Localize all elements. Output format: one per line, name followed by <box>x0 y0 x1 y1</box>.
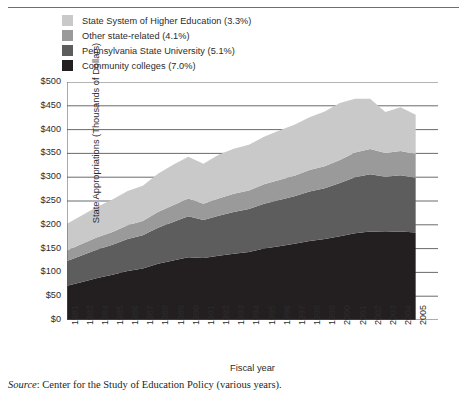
x-tick-2005: 2005 <box>419 305 428 325</box>
x-tick-2003: 2003 <box>389 305 398 325</box>
x-tick-1990: 1990 <box>192 305 201 325</box>
legend-swatch-community-colleges <box>62 60 73 71</box>
x-tick-2000: 2000 <box>343 305 352 325</box>
x-tick-2004: 2004 <box>404 305 413 325</box>
x-tick-1999: 1999 <box>328 305 337 325</box>
legend-label-pennsylvania-state-university: Pennsylvania State University (5.1%) <box>82 46 235 56</box>
y-tick-100: $100 <box>27 267 61 276</box>
x-tick-1989: 1989 <box>177 305 186 325</box>
x-axis-title: Fiscal year <box>67 363 438 373</box>
y-tick-0: $0 <box>27 315 61 324</box>
y-tick-200: $200 <box>27 220 61 229</box>
x-tick-1986: 1986 <box>131 305 140 325</box>
x-tick-1991: 1991 <box>207 305 216 325</box>
y-tick-350: $350 <box>27 148 61 157</box>
chart-plot-area <box>67 82 438 320</box>
x-tick-1985: 1985 <box>116 305 125 325</box>
y-axis-title: State Appropriations (Thousands of Dolla… <box>91 28 101 238</box>
x-tick-2001: 2001 <box>359 305 368 325</box>
y-tick-250: $250 <box>27 196 61 205</box>
x-axis-tick-labels: 1981198219841985198619871988198919901991… <box>67 325 438 365</box>
x-tick-1996: 1996 <box>283 305 292 325</box>
x-tick-1984: 1984 <box>101 305 110 325</box>
legend-item-state-system-higher-education: State System of Higher Education (3.3%) <box>62 13 382 28</box>
x-tick-1993: 1993 <box>237 305 246 325</box>
y-tick-400: $400 <box>27 125 61 134</box>
y-tick-50: $50 <box>27 291 61 300</box>
source-text: : Center for the Study of Education Poli… <box>37 379 282 390</box>
legend-item-pennsylvania-state-university: Pennsylvania State University (5.1%) <box>62 43 382 58</box>
x-tick-1997: 1997 <box>298 305 307 325</box>
x-tick-1981: 1981 <box>71 305 80 325</box>
y-tick-500: $500 <box>27 77 61 86</box>
top-divider-rule <box>8 7 459 8</box>
x-tick-1994: 1994 <box>252 305 261 325</box>
legend-item-other-state-related: Other state-related (4.1%) <box>62 28 382 43</box>
x-tick-1998: 1998 <box>313 305 322 325</box>
y-tick-300: $300 <box>27 172 61 181</box>
source-label: Source <box>8 379 37 390</box>
legend-swatch-pennsylvania-state-university <box>62 45 73 56</box>
legend-swatch-other-state-related <box>62 30 73 41</box>
chart-legend: State System of Higher Education (3.3%)O… <box>62 13 382 73</box>
x-tick-1982: 1982 <box>86 305 95 325</box>
x-tick-1995: 1995 <box>268 305 277 325</box>
x-tick-2002: 2002 <box>374 305 383 325</box>
legend-swatch-state-system-higher-education <box>62 15 73 26</box>
source-note: Source: Center for the Study of Educatio… <box>8 379 282 390</box>
x-tick-1988: 1988 <box>161 305 170 325</box>
x-tick-1992: 1992 <box>222 305 231 325</box>
y-axis-tick-labels: $500$450$400$350$300$250$200$150$100$50$… <box>27 82 61 320</box>
x-tick-1987: 1987 <box>146 305 155 325</box>
stacked-area-chart <box>67 82 438 320</box>
y-tick-450: $450 <box>27 101 61 110</box>
y-tick-150: $150 <box>27 244 61 253</box>
legend-label-state-system-higher-education: State System of Higher Education (3.3%) <box>82 16 251 26</box>
legend-item-community-colleges: Community colleges (7.0%) <box>62 58 382 73</box>
